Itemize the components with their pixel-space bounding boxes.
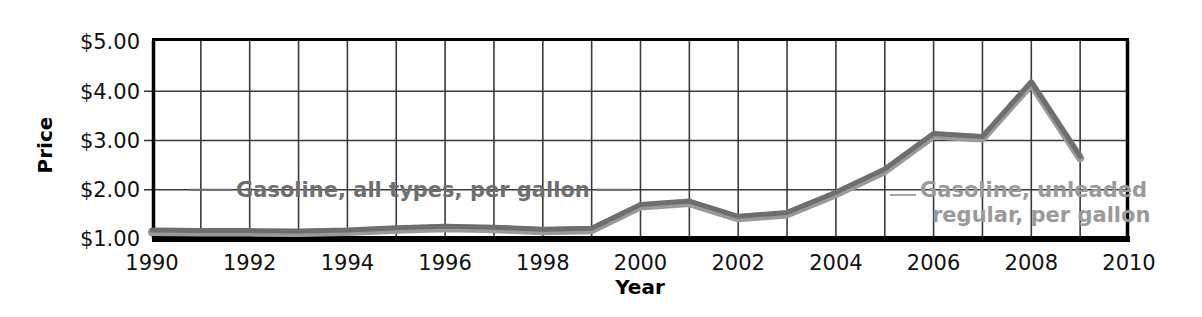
y-tick-label-2: $2.00 [80, 178, 140, 202]
x-tick-label-1994: 1994 [321, 251, 374, 275]
x-tick-label-2000: 2000 [614, 251, 667, 275]
x-tick-label-2006: 2006 [907, 251, 960, 275]
y-axis-title: Price [33, 117, 57, 174]
y-tick-label-3: $3.00 [80, 129, 140, 153]
annotation-unleaded-line2: regular, per gallon [932, 203, 1150, 227]
x-tick-label-2008: 2008 [1005, 251, 1058, 275]
x-tick-label-1996: 1996 [418, 251, 471, 275]
chart-figure: Gasoline, all types, per gallon Gasoline… [0, 0, 1202, 317]
x-tick-label-2004: 2004 [809, 251, 862, 275]
x-tick-label-2010: 2010 [1102, 251, 1155, 275]
x-tick-label-2002: 2002 [711, 251, 764, 275]
y-tick-label-5: $5.00 [80, 30, 140, 54]
gasoline-price-line-chart: Gasoline, all types, per gallon Gasoline… [0, 0, 1202, 317]
x-tick-label-1990: 1990 [125, 251, 178, 275]
x-tick-label-1998: 1998 [516, 251, 569, 275]
x-tick-label-1992: 1992 [223, 251, 276, 275]
x-axis-title: Year [614, 275, 665, 299]
y-tick-label-1: $1.00 [80, 227, 140, 251]
y-tick-label-4: $4.00 [80, 80, 140, 104]
annotation-unleaded-line1: Gasoline, unleaded [920, 178, 1147, 202]
y-axis-ticks [144, 91, 152, 190]
annotation-all-types: Gasoline, all types, per gallon [236, 178, 590, 202]
